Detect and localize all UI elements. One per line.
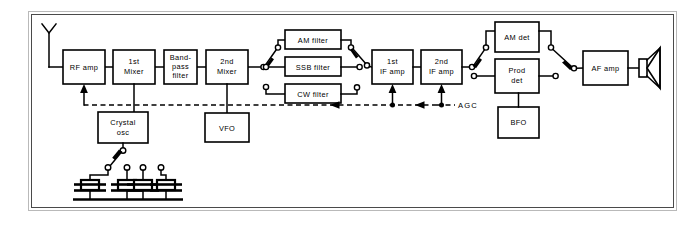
block-label-first-mixer-line2: Mixer	[124, 67, 144, 76]
loudspeaker-icon	[628, 48, 660, 88]
block-label-first-mixer-line1: 1st	[129, 57, 140, 66]
block-rf-amp: RF amp	[63, 50, 105, 84]
crystal-bank-wires	[90, 170, 166, 180]
block-label-first-if-amp-line1: 1st	[387, 57, 398, 66]
receiver-block-diagram: RF amp 1st Mixer Band- pass filter 2nd M…	[0, 0, 685, 227]
detector-input-wires	[477, 31, 495, 76]
block-bfo: BFO	[498, 93, 539, 138]
crystal-1	[74, 180, 106, 199]
block-am-filter: AM filter	[285, 30, 341, 49]
block-label-rf-amp: RF amp	[70, 63, 98, 72]
antenna-icon	[42, 24, 63, 67]
block-label-am-det: AM det	[504, 33, 530, 42]
detector-output-wires	[539, 31, 553, 76]
block-label-vfo: VFO	[219, 124, 235, 133]
block-label-prod-det-line1: Prod	[508, 66, 525, 75]
diagram-inner-frame	[32, 15, 674, 208]
block-second-if-amp: 2nd IF amp	[421, 50, 462, 84]
block-label-cw-filter: CW filter	[297, 90, 329, 99]
detector-input-selector-switch[interactable]	[462, 45, 489, 79]
block-label-bandpass-line2: pass	[172, 62, 189, 71]
block-label-second-if-amp-line2: IF amp	[429, 67, 454, 76]
block-vfo: VFO	[205, 84, 249, 142]
block-label-second-mixer-line1: 2nd	[220, 57, 233, 66]
block-label-bfo: BFO	[510, 118, 526, 127]
block-label-prod-det-line2: det	[511, 76, 522, 85]
block-label-bandpass-line1: Band-	[170, 53, 192, 62]
block-second-mixer: 2nd Mixer	[206, 50, 248, 84]
block-crystal-oscillator: Crystal osc	[98, 84, 148, 143]
block-diagram-container: RF amp 1st Mixer Band- pass filter 2nd M…	[0, 0, 685, 227]
block-label-bandpass-line3: filter	[172, 71, 188, 80]
crystal-bank-selector-switch[interactable]	[105, 143, 164, 170]
block-label-crystal-osc-line2: osc	[117, 128, 130, 137]
block-label-ssb-filter: SSB filter	[296, 63, 330, 72]
block-bandpass-filter: Band- pass filter	[164, 50, 197, 84]
block-label-first-if-amp-line2: IF amp	[380, 67, 405, 76]
block-first-if-amp: 1st IF amp	[372, 50, 413, 84]
block-label-am-filter: AM filter	[298, 36, 328, 45]
block-label-second-if-amp-line1: 2nd	[435, 57, 448, 66]
detector-output-selector-switch[interactable]	[548, 45, 583, 79]
crystal-4	[150, 180, 182, 199]
block-first-mixer: 1st Mixer	[113, 50, 155, 84]
block-label-second-mixer-line2: Mixer	[217, 67, 237, 76]
block-am-detector: AM det	[495, 22, 539, 52]
block-product-detector: Prod det	[495, 59, 539, 93]
block-ssb-filter: SSB filter	[285, 57, 341, 76]
block-label-af-amp: AF amp	[592, 64, 620, 73]
agc-bus: AGC	[80, 84, 478, 110]
block-cw-filter: CW filter	[285, 84, 341, 103]
block-label-crystal-osc-line1: Crystal	[110, 118, 135, 127]
block-af-amp: AF amp	[583, 51, 628, 85]
agc-label: AGC	[458, 101, 478, 110]
